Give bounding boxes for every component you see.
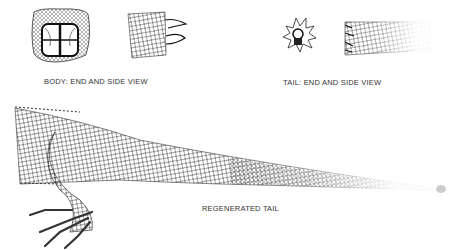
tail-end-view — [283, 18, 316, 52]
tail-view-label: TAIL: END AND SIDE VIEW — [283, 78, 381, 87]
body-side-view — [128, 12, 186, 58]
tail-side-view — [345, 20, 435, 57]
regenerated-tail-label: REGENERATED TAIL — [202, 204, 279, 213]
lizard-regenerated-tail — [15, 107, 446, 248]
body-end-view — [32, 9, 90, 62]
body-view-label: BODY: END AND SIDE VIEW — [44, 77, 148, 86]
